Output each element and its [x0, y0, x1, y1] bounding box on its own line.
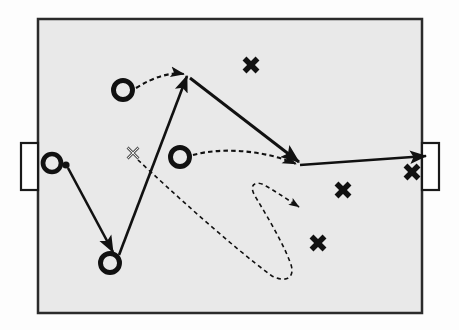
- ball-icon: [62, 161, 69, 168]
- goal-right: [422, 143, 439, 190]
- play-diagram-root: [0, 0, 459, 330]
- play-diagram-canvas: [0, 0, 459, 330]
- playing-field: [38, 19, 422, 313]
- goal-left: [21, 143, 38, 190]
